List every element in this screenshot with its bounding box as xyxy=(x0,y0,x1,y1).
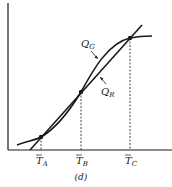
intersection-point-b xyxy=(79,90,83,94)
svg-text:TA: TA xyxy=(36,155,48,168)
tick-label-tb: TB xyxy=(76,155,88,168)
intersection-point-a xyxy=(39,135,43,139)
tick-label-tc: TC xyxy=(125,155,138,168)
intersection-point-c xyxy=(128,36,132,40)
svg-text:TC: TC xyxy=(125,155,138,168)
figure-caption: (d) xyxy=(75,172,88,182)
tick-label-ta: TA xyxy=(36,155,48,168)
label-qr: QR xyxy=(101,86,115,99)
label-qg: QG xyxy=(81,38,95,51)
svg-text:TB: TB xyxy=(76,155,88,168)
curve-qg xyxy=(17,36,152,145)
steady-state-diagram: QG QR TA TB TC (d) xyxy=(0,0,172,187)
